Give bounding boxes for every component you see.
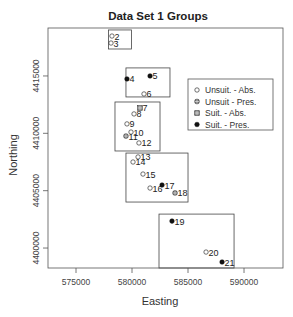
point-label: 20 xyxy=(209,248,219,258)
legend-marker-unsuit_pres xyxy=(195,99,200,104)
legend-label: Unsuit. - Abs. xyxy=(205,85,256,95)
legend-label: Suit. - Pres. xyxy=(205,120,249,130)
point-label: 7 xyxy=(142,103,147,113)
point-label: 17 xyxy=(165,181,175,191)
y-axis: 4400000440500044100004415000 xyxy=(31,59,48,264)
y-tick-label: 4400000 xyxy=(31,231,41,264)
x-tick-label: 585000 xyxy=(174,277,203,287)
box-group-2-3 xyxy=(109,30,132,49)
point-label: 12 xyxy=(141,138,151,148)
point-label: 4 xyxy=(129,74,134,84)
y-tick-label: 4410000 xyxy=(31,116,41,149)
scatter-chart: Data Set 1 Groups 5750005800005850005900… xyxy=(0,0,293,317)
x-axis: 575000580000585000590000 xyxy=(62,268,259,287)
point-label: 18 xyxy=(178,188,188,198)
y-tick-label: 4405000 xyxy=(31,174,41,207)
legend-label: Unsuit - Pres. xyxy=(205,97,257,107)
point-label: 15 xyxy=(145,170,155,180)
point-label: 19 xyxy=(174,217,184,227)
legend-marker-suit_abs xyxy=(195,111,200,116)
point-label: 14 xyxy=(136,157,146,167)
y-axis-label: Northing xyxy=(7,134,19,176)
x-axis-label: Easting xyxy=(142,295,179,307)
x-tick-label: 575000 xyxy=(62,277,91,287)
legend-marker-suit_pres xyxy=(195,122,200,127)
legend: Unsuit. - Abs.Unsuit - Pres.Suit. - Abs.… xyxy=(188,79,273,130)
point-label: 3 xyxy=(114,39,119,49)
plot-frame xyxy=(48,28,283,268)
point-label: 5 xyxy=(153,71,158,81)
y-tick-label: 4415000 xyxy=(31,59,41,92)
point-label: 6 xyxy=(146,89,151,99)
x-tick-label: 580000 xyxy=(118,277,147,287)
group-boxes xyxy=(109,30,234,268)
legend-label: Suit. - Abs. xyxy=(205,108,246,118)
x-tick-label: 590000 xyxy=(230,277,259,287)
data-points: 23456789101112131415161718192021 xyxy=(109,32,235,268)
legend-marker-unsuit_abs xyxy=(195,88,199,92)
chart-title: Data Set 1 Groups xyxy=(108,10,208,22)
point-label: 21 xyxy=(225,258,235,268)
point-label: 8 xyxy=(137,109,142,119)
point-label: 11 xyxy=(128,132,137,142)
